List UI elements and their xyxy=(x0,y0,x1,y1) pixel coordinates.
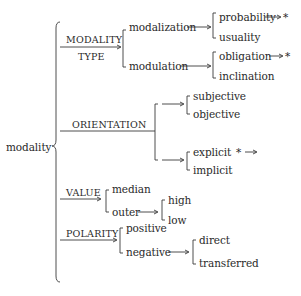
node-subjective: subjective xyxy=(193,90,246,102)
root-label-modality: modality xyxy=(6,141,51,153)
system-label-polarity: POLARITY xyxy=(66,228,118,240)
node-negative: negative xyxy=(126,246,171,258)
node-probability: probability xyxy=(219,11,276,23)
node-direct: direct xyxy=(199,234,230,246)
system-label-type: TYPE xyxy=(78,51,105,63)
system-label-value: VALUE xyxy=(66,187,101,199)
node-usuality: usuality xyxy=(219,31,260,43)
node-median: median xyxy=(112,183,151,195)
node-obligation: obligation xyxy=(219,50,271,62)
node-high: high xyxy=(168,194,191,206)
node-outer: outer xyxy=(112,206,140,218)
obligation-marker: * xyxy=(285,50,290,62)
node-modalization: modalization xyxy=(129,21,196,33)
node-explicit: explicit xyxy=(193,146,231,158)
node-positive: positive xyxy=(126,222,167,234)
node-implicit: implicit xyxy=(193,164,232,176)
node-transferred: transferred xyxy=(199,257,259,269)
system-label-modality: MODALITY xyxy=(66,34,122,46)
node-inclination: inclination xyxy=(219,70,274,82)
node-low: low xyxy=(168,214,186,226)
system-label-orientation: ORIENTATION xyxy=(72,119,147,131)
node-modulation: modulation xyxy=(129,60,188,72)
main-brace xyxy=(52,22,60,282)
node-objective: objective xyxy=(193,108,240,120)
explicit-marker: * xyxy=(236,146,241,158)
probability-marker: * xyxy=(283,11,288,23)
